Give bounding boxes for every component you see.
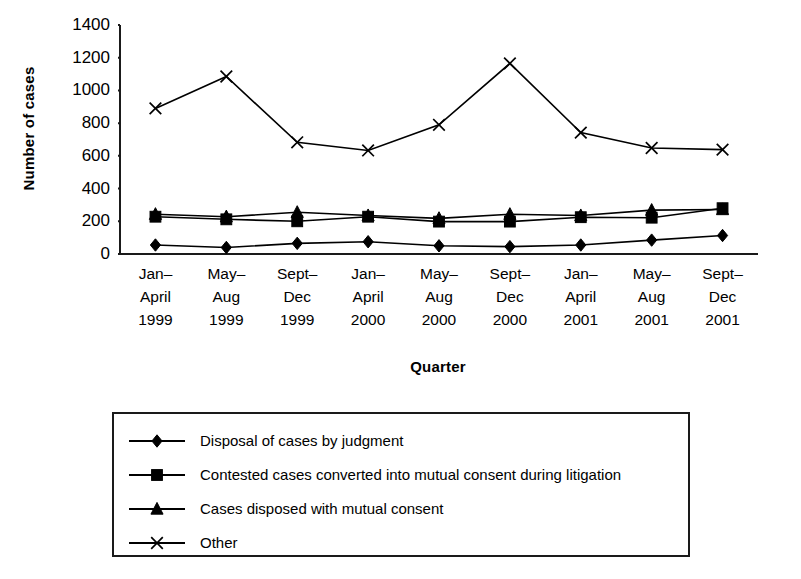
plot-area [118,24,758,255]
x-axis-tick-label-line: Dec [680,285,766,308]
y-axis-tick-label: 1400 [50,16,110,33]
data-point-cross-marker [575,127,587,139]
data-point-diamond-marker [505,240,515,252]
data-point-cross-marker [221,71,233,83]
data-point-diamond-marker [221,241,231,253]
data-point-diamond-marker [152,435,162,447]
data-point-diamond-marker [717,229,727,241]
legend-item[interactable]: Cases disposed with mutual consent [114,492,688,526]
data-point-diamond-marker [363,236,373,248]
legend-item-label: Disposal of cases by judgment [200,432,403,450]
x-axis-tick-label-line: Sept– [680,262,766,285]
legend-item-label: Contested cases converted into mutual co… [200,466,621,484]
y-axis-tick-label: 800 [50,114,110,131]
data-point-cross-marker [150,103,162,115]
legend-item[interactable]: Other [114,526,688,560]
data-point-diamond-marker [434,240,444,252]
y-axis-tick-label: 1000 [50,81,110,98]
legend-diamond-icon [126,427,188,455]
y-axis-tick-label: 1200 [50,49,110,66]
data-point-triangle-marker [291,206,303,218]
data-point-triangle-marker [504,208,516,220]
legend-cross-icon [126,529,188,557]
chart-legend: Disposal of cases by judgmentContested c… [112,412,690,557]
x-axis-title: Quarter [118,358,758,375]
data-point-diamond-marker [576,239,586,251]
y-axis-tick-label: 400 [50,180,110,197]
data-point-diamond-marker [292,237,302,249]
x-axis-tick-label: Sept–Dec2001 [680,262,766,331]
data-point-diamond-marker [150,239,160,251]
legend-item-label: Cases disposed with mutual consent [200,500,443,518]
y-axis-tick-label: 200 [50,212,110,229]
legend-item[interactable]: Disposal of cases by judgment [114,424,688,458]
plot-svg [118,24,758,255]
y-axis-tick-labels: 0200400600800100012001400 [48,0,110,279]
chart-figure: Number of cases 020040060080010001200140… [0,0,801,579]
x-axis-tick-labels: Jan–April1999May–Aug1999Sept–Dec1999Jan–… [118,262,758,352]
legend-item-label: Other [200,534,238,552]
legend-item[interactable]: Contested cases converted into mutual co… [114,458,688,492]
series-line-3 [155,63,722,150]
legend-square-icon [126,461,188,489]
data-point-cross-marker [504,58,516,70]
data-point-cross-marker [433,119,445,131]
y-axis-tick-label: 600 [50,147,110,164]
legend-triangle-icon [126,495,188,523]
data-point-diamond-marker [647,234,657,246]
y-axis-title: Number of cases [20,39,37,219]
x-axis-tick-label-line: 2001 [680,308,766,331]
data-point-square-marker [152,470,163,481]
y-axis-tick-label: 0 [50,245,110,262]
